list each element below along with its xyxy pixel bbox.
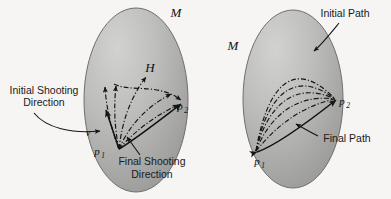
end-point-subscript: 2 (184, 106, 188, 115)
velocity-label: v (86, 127, 91, 138)
end-point-letter: p (176, 100, 183, 112)
final-shooting-line2: Direction (131, 168, 173, 180)
initial-path-label: Initial Path (320, 7, 369, 19)
end-point-letter: p (338, 95, 345, 107)
start-point-letter: p (253, 155, 260, 167)
figure-canvas: M H v p 1 p 2 (0, 0, 391, 199)
start-point-subscript: 1 (101, 151, 105, 160)
start-point-subscript: 1 (261, 161, 265, 170)
left-panel: M H v p 1 p 2 (10, 5, 189, 192)
end-point-subscript: 2 (346, 101, 350, 110)
initial-shooting-line2: Direction (23, 96, 65, 108)
manifold-label-left: M (170, 5, 183, 20)
figure-container: M H v p 1 p 2 (0, 0, 391, 199)
right-panel: M p 1 p 2 Initial Path (227, 7, 371, 188)
final-path-label: Final Path (323, 132, 370, 144)
final-shooting-line1: Final Shooting (118, 155, 185, 167)
start-point-letter: p (93, 145, 100, 157)
manifold-label-right: M (227, 38, 240, 53)
initial-shooting-line1: Initial Shooting (10, 84, 79, 96)
variation-field-label: H (144, 60, 155, 75)
